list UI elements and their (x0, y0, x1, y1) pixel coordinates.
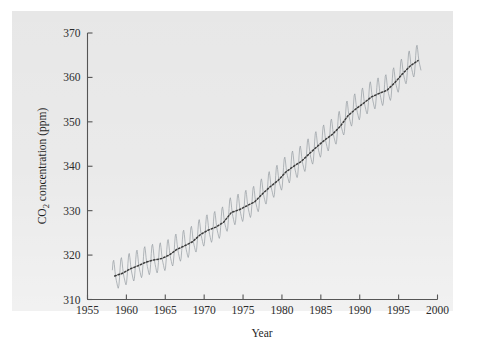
y-axis-ticks-group (88, 33, 93, 300)
x-axis-tick-label: 1965 (154, 304, 177, 316)
x-axis-tick-label: 1985 (309, 304, 332, 316)
x-axis-title: Year (251, 327, 272, 339)
x-axis-tick-label: 1975 (232, 304, 255, 316)
x-axis-tick-labels-group: 1955196019651970197519801985199019952000 (76, 304, 449, 316)
data-series-group (112, 45, 421, 288)
x-axis-tick-label: 1980 (270, 304, 293, 316)
x-axis-tick-label: 1970 (193, 304, 216, 316)
x-axis-tick-label: 1995 (387, 304, 410, 316)
y-axis-tick-label: 320 (63, 249, 81, 261)
x-axis-tick-label: 1955 (76, 304, 99, 316)
y-axis-title-suffix: concentration (ppm) (36, 107, 49, 204)
x-axis-tick-label: 2000 (426, 304, 449, 316)
x-axis-ticks-group (88, 295, 438, 300)
y-axis-tick-label: 340 (63, 160, 81, 172)
figure-container: 310320330340350360370 195519601965197019… (0, 0, 478, 356)
svg-text:CO2 concentration (ppm): CO2 concentration (ppm) (36, 107, 51, 224)
x-axis-tick-label: 1990 (348, 304, 371, 316)
y-axis-tick-label: 370 (63, 27, 81, 39)
y-axis-tick-labels-group: 310320330340350360370 (63, 27, 81, 306)
monthly-co2-series-line (112, 45, 421, 288)
y-axis-tick-label: 360 (63, 71, 81, 83)
y-axis-title: CO2 concentration (ppm) (36, 107, 51, 224)
y-axis-tick-label: 350 (63, 116, 81, 128)
y-axis-tick-label: 330 (63, 205, 81, 217)
x-axis-tick-label: 1960 (115, 304, 138, 316)
axes-group (88, 33, 438, 300)
y-axis-title-prefix: CO (36, 208, 48, 224)
co2-concentration-line-chart: 310320330340350360370 195519601965197019… (0, 0, 478, 356)
